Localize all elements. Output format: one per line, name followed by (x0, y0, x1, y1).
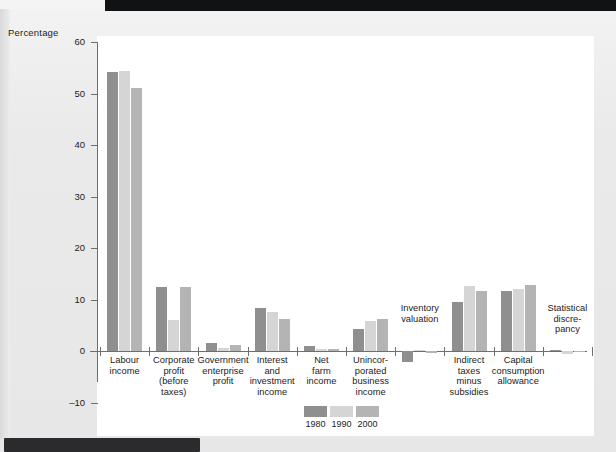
y-tick-label-10: 10 (55, 294, 85, 305)
y-tick-label-0: 0 (55, 345, 85, 356)
category-label-line: Capital (488, 355, 549, 366)
category-label-line: taxes) (143, 387, 204, 398)
category-label-6: Inventoryvaluation (389, 303, 450, 324)
y-tick-label-30: 30 (55, 191, 85, 202)
bar-1990-cat9 (562, 351, 573, 354)
bar-1990-cat7 (464, 286, 475, 351)
bar-2000-cat9 (574, 351, 585, 352)
bar-1980-cat3 (255, 308, 266, 351)
category-label-line: allowance (488, 376, 549, 387)
category-label-line: Inventory (389, 303, 450, 314)
bar-1990-cat3 (267, 312, 278, 351)
category-label-line: business (340, 376, 401, 387)
category-label-8: Capitalconsumptionallowance (488, 355, 549, 387)
category-label-5: Unincor-poratedbusinessincome (340, 355, 401, 397)
bar-2000-cat7 (476, 291, 487, 351)
y-tick-label-60: 60 (55, 36, 85, 47)
legend-label-1980: 1980 (304, 419, 327, 429)
legend-labels: 198019902000 (284, 419, 399, 429)
y-tick-50 (91, 94, 98, 95)
bottom-dark-band (4, 438, 200, 452)
y-tick-label--10: –10 (55, 397, 85, 408)
legend-swatch-1980 (304, 406, 327, 417)
bar-2000-cat4 (328, 349, 339, 351)
legend-swatches (284, 406, 399, 417)
category-label-line: discre- (537, 314, 598, 325)
x-axis-line (90, 351, 587, 352)
bar-1990-cat0 (119, 71, 130, 351)
bar-2000-cat5 (377, 319, 388, 351)
bar-1980-cat9 (550, 350, 561, 351)
bar-1980-cat2 (206, 343, 217, 351)
y-tick-label-20: 20 (55, 242, 85, 253)
category-label-line: valuation (389, 314, 450, 325)
legend-label-1990: 1990 (330, 419, 353, 429)
y-tick-label-40: 40 (55, 139, 85, 150)
bar-1990-cat5 (365, 321, 376, 351)
bar-1980-cat6 (402, 351, 413, 362)
category-label-line: Unincor- (340, 355, 401, 366)
bar-2000-cat0 (131, 88, 142, 351)
y-tick-20 (91, 248, 98, 249)
bar-1990-cat6 (414, 350, 425, 351)
bar-2000-cat2 (230, 345, 241, 351)
y-tick-30 (91, 197, 98, 198)
category-label-line: pancy (537, 324, 598, 335)
legend-swatch-1990 (330, 406, 353, 417)
bar-1980-cat8 (501, 291, 512, 351)
bar-1980-cat4 (304, 346, 315, 351)
category-label-line: income (340, 387, 401, 398)
top-white-strip (0, 0, 105, 9)
y-tick-0 (91, 351, 98, 352)
bar-2000-cat3 (279, 319, 290, 351)
bar-1980-cat0 (107, 72, 118, 351)
bar-1990-cat4 (316, 349, 327, 351)
bar-2000-cat1 (180, 287, 191, 351)
bar-1980-cat7 (452, 302, 463, 351)
category-label-line: income (242, 387, 303, 398)
bar-1990-cat8 (513, 289, 524, 351)
y-tick--10 (91, 403, 98, 404)
bar-2000-cat8 (525, 285, 536, 351)
y-axis-title: Percentage (8, 27, 59, 38)
y-tick-60 (91, 42, 98, 43)
category-label-9: Statisticaldiscre-pancy (537, 303, 598, 335)
legend-label-2000: 2000 (356, 419, 379, 429)
bar-1990-cat2 (218, 348, 229, 351)
legend: 198019902000 (284, 406, 399, 429)
x-separator-10 (592, 347, 593, 356)
bar-1990-cat1 (168, 320, 179, 351)
bar-2000-cat6 (426, 351, 437, 353)
page-background: Percentage 6050403020100–10 Labourincome… (0, 0, 616, 452)
category-label-line: subsidies (438, 387, 499, 398)
bar-1980-cat1 (156, 287, 167, 351)
top-black-band (105, 0, 616, 11)
legend-swatch-2000 (356, 406, 379, 417)
bar-1980-cat5 (353, 329, 364, 351)
category-label-line: Statistical (537, 303, 598, 314)
y-tick-40 (91, 145, 98, 146)
category-label-line: porated (340, 366, 401, 377)
bar-chart-figure: Percentage 6050403020100–10 Labourincome… (0, 11, 616, 436)
y-tick-label-50: 50 (55, 88, 85, 99)
y-tick-10 (91, 300, 98, 301)
category-label-line: consumption (488, 366, 549, 377)
